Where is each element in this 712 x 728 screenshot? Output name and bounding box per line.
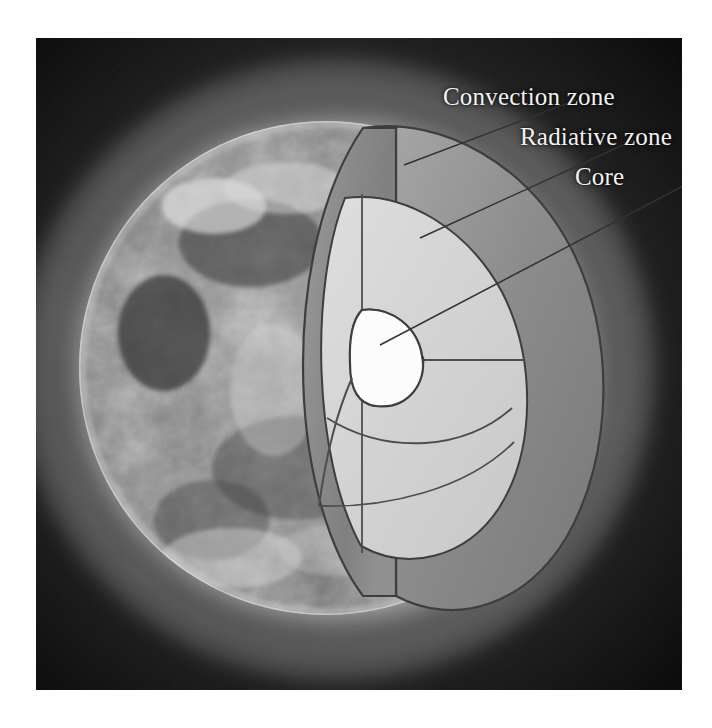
label-core: Core [575, 164, 624, 189]
label-radiative-zone: Radiative zone [520, 124, 672, 149]
label-convection-zone: Convection zone [443, 84, 615, 109]
sun-structure-figure: Convection zone Radiative zone Core [0, 0, 712, 728]
sun-photograph-frame: Convection zone Radiative zone Core [36, 38, 682, 690]
